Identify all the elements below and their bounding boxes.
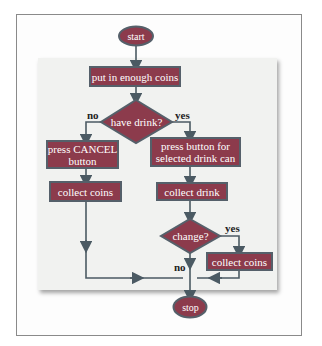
change-yes-label: yes xyxy=(225,223,240,234)
change-label: change? xyxy=(161,226,220,246)
collect-drink-label: collect drink xyxy=(157,183,227,200)
flowchart-connectors xyxy=(0,0,322,346)
change-no-label: no xyxy=(174,262,186,273)
stop-label: stop xyxy=(174,297,207,318)
start-label: start xyxy=(119,27,153,46)
have-drink-no-label: no xyxy=(87,110,99,121)
press-cancel-label: press CANCEL button xyxy=(47,141,118,168)
put-coins-label: put in enough coins xyxy=(90,67,180,86)
collect-coins-left-label: collect coins xyxy=(50,182,121,201)
collect-coins-right-label: collect coins xyxy=(207,253,272,270)
press-button-label: press button for selected drink can xyxy=(151,138,240,166)
have-drink-yes-label: yes xyxy=(175,110,190,121)
have-drink-label: have drink? xyxy=(101,112,172,132)
